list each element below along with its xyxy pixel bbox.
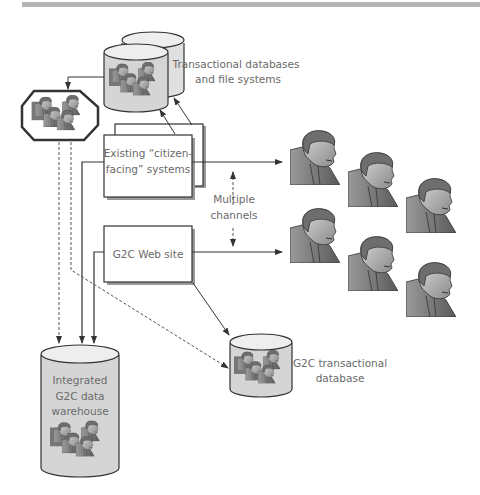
citizen-icon [348,237,398,291]
warehouse-label-2: G2C data [55,390,104,402]
citizen-icon [348,153,398,207]
transactional-db-label-1: Transactional databases [172,58,300,70]
connector-web-to-warehouse [94,252,104,343]
transactional-databases-icon [104,32,184,112]
existing-systems-label-2: facing” systems [106,163,190,175]
transactional-db-label-2: and file systems [195,73,281,85]
web-site-label: G2C Web site [113,248,184,260]
connector-db-to-group [68,77,104,89]
g2c-diagram: Transactional databases and file systems… [0,0,480,495]
g2c-db-label-1: G2C transactional [293,357,387,369]
multiple-channels-label-1: Multiple [213,193,255,205]
citizen-group-octagon [22,91,98,140]
warehouse-label-1: Integrated [53,374,108,386]
citizens-group [290,131,456,317]
existing-systems-box [104,124,206,200]
multiple-channels-label-2: channels [210,209,257,221]
connector-existing-to-db-2 [174,98,192,125]
g2c-transactional-db-icon [230,334,292,397]
warehouse-label-3: warehouse [51,405,108,417]
citizen-icon [406,263,456,317]
existing-systems-label-1: Existing “citizen- [104,147,193,159]
citizen-icon [290,209,340,263]
citizen-icon [406,179,456,233]
header-bar [22,2,480,7]
citizen-icon [290,131,340,185]
g2c-db-label-2: database [316,372,365,384]
connector-web-to-g2c-db [193,283,229,335]
